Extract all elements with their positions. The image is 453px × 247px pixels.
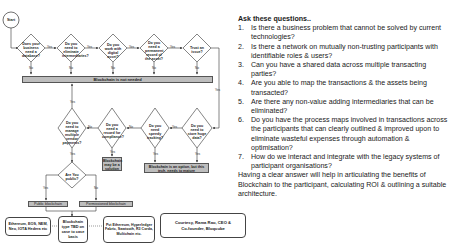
decision-permanent-record: Do you need a permanent record of the as… — [145, 41, 163, 61]
question-text: Is there a network on mutually non-trust… — [251, 43, 450, 61]
label-yes: Yes — [70, 152, 75, 156]
question-number: 5. — [238, 98, 251, 116]
questions-title: Ask these questions.. — [238, 15, 450, 24]
permissioned-examples-box: Pvt Ethereum, Hyperledger Fabric, Sawtoo… — [103, 216, 155, 243]
label-yes: Yes — [47, 45, 52, 49]
label-yes: Yes — [153, 152, 158, 156]
blockchain-option-box: Blockchain is an option, but this tech. … — [144, 163, 209, 173]
label-no: No — [88, 125, 92, 129]
question-item: 4.Are you able to map the transactions &… — [238, 79, 450, 97]
question-number: 2. — [238, 43, 251, 61]
questions-list: 1.Is there a business problem that canno… — [238, 24, 450, 171]
label-yes: Yes — [110, 150, 115, 154]
question-text: Are there any non-value adding intermedi… — [251, 98, 450, 116]
blockchain-tbd-box: Blockchain type TBD on case to case basi… — [58, 216, 88, 243]
label-no: No — [111, 66, 115, 70]
label-yes: Yes — [195, 152, 200, 156]
label-yes: Yes — [170, 45, 175, 49]
blockchain-maybe-solution-box: Blockchain may be a solution — [102, 157, 122, 171]
decision-digital-asset: Do you work with digital asset? — [104, 43, 122, 59]
label-yes: Yes — [129, 45, 134, 49]
label-no: No — [29, 66, 33, 70]
decision-trust-issue: Trust an issue? — [188, 46, 206, 54]
label-no: No — [152, 66, 156, 70]
label-yes: Yes — [87, 45, 92, 49]
decision-vendor-payments: Do you need to manage multiple vendor pa… — [62, 121, 82, 145]
label-yes: Yes — [70, 100, 75, 104]
question-number: 6. — [238, 116, 251, 153]
question-text: Are you able to map the transactions & t… — [251, 79, 450, 97]
decision-eliminate-intermediaries: Do you need to eliminate intermediaries? — [62, 42, 80, 58]
label-yes: Yes — [43, 186, 48, 190]
decision-are-you-public: Are You public? — [60, 173, 84, 181]
question-number: 1. — [238, 24, 251, 42]
decision-huge-data: Do you need to store huge data? — [187, 124, 207, 140]
question-number: 3. — [238, 61, 251, 79]
decision-compliance-record: Do you need a record for compliance? — [102, 123, 122, 139]
blockchain-not-needed-bar: Blockchain is not needed — [22, 76, 213, 83]
question-text: Do you have the process maps involved in… — [251, 116, 450, 153]
label-no: No — [195, 66, 199, 70]
question-number: 7. — [238, 153, 251, 171]
public-examples-box: Ethereum, EOS, NEM, Neo, IOTA Hedera etc — [5, 217, 51, 236]
label-no: No — [94, 186, 98, 190]
question-item: 6.Do you have the process maps involved … — [238, 116, 450, 153]
question-text: How do we interact and integrate with th… — [251, 153, 450, 171]
question-item: 5.Are there any non-value adding interme… — [238, 98, 450, 116]
questions-panel: Ask these questions.. 1.Is there a busin… — [238, 15, 450, 199]
question-number: 4. — [238, 79, 251, 97]
public-blockchain-box: Public blockchain — [28, 201, 68, 207]
label-no: Yes — [172, 125, 177, 129]
question-item: 7.How do we interact and integrate with … — [238, 153, 450, 171]
permissioned-blockchain-box: Permissioned blockchain — [79, 201, 133, 207]
question-text: Can you have a shared data across multip… — [251, 61, 450, 79]
start-node: Start — [3, 18, 19, 22]
question-item: 2.Is there a network on mutually non-tru… — [238, 43, 450, 61]
questions-summary: Having a clear answer will help in artic… — [238, 171, 450, 199]
label-yes: Yes — [215, 88, 220, 92]
credit-box: Courtesy, Rama Rao, CEO & Co-founder, Bl… — [160, 213, 246, 238]
question-text: Is there a business problem that cannot … — [251, 24, 450, 42]
label-no: No — [69, 66, 73, 70]
decision-speedy-tracking: Do you need speedy tracking? — [145, 124, 165, 140]
question-item: 3.Can you have a shared data across mult… — [238, 61, 450, 79]
decision-need-database: Does your business need a database? — [22, 42, 40, 58]
label-no: No — [129, 125, 133, 129]
question-item: 1.Is there a business problem that canno… — [238, 24, 450, 42]
